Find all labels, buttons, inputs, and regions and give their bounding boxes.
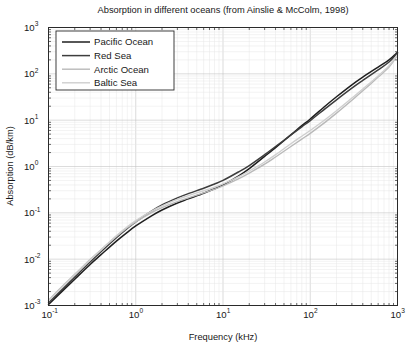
legend-label-pacific-ocean: Pacific Ocean bbox=[94, 36, 153, 47]
y-axis-label: Absorption (dB/km) bbox=[5, 126, 15, 206]
absorption-chart: Absorption in different oceans (from Ain… bbox=[0, 0, 414, 349]
x-axis-label: Frequency (kHz) bbox=[189, 332, 258, 342]
chart-legend[interactable]: Pacific OceanRed SeaArctic OceanBaltic S… bbox=[56, 31, 174, 90]
figure: Absorption in different oceans (from Ain… bbox=[0, 0, 414, 349]
legend-label-arctic-ocean: Arctic Ocean bbox=[94, 64, 149, 75]
chart-title: Absorption in different oceans (from Ain… bbox=[98, 5, 349, 15]
legend-label-baltic-sea: Baltic Sea bbox=[94, 77, 138, 88]
legend-label-red-sea: Red Sea bbox=[94, 50, 132, 61]
